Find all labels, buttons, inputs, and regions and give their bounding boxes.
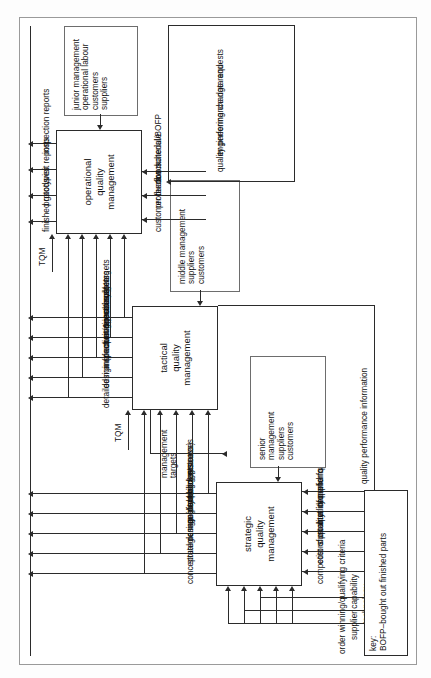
tact-to-oper-arrow-1 [65,234,71,239]
tact-to-oper-arrow-3 [93,234,99,239]
management-targets-arrow [222,451,227,457]
strategic-input-line-1 [228,591,229,624]
operational-box[interactable]: operational quality management [56,130,142,234]
diagram-canvas: strategic quality management [20,18,416,664]
operational-bottom-feeder-3 [142,171,206,172]
qpd-vertical-left [168,181,294,182]
diagram-page: strategic quality management [0,0,431,678]
key-heading: key: [368,495,378,651]
label-raw-material-bofp: raw material/BOFP [154,114,163,184]
operational-output-arrow-4 [28,141,33,147]
strategic-input-line-4 [276,591,277,624]
middle-to-tactical-arrow [197,301,203,306]
label-design-systems: design systems [186,447,195,504]
strategic-bottom-arrow-3 [303,529,308,535]
strategic-input-line-5 [292,591,293,624]
strategic-box[interactable]: strategic quality management [216,482,302,586]
qpd-horizontal-lower [294,25,295,182]
strategic-output-arrow-3 [28,531,33,537]
strat-to-tact-arrow-3 [173,410,179,415]
tactical-box-line2: quality [169,344,180,371]
label-inspection-reports: inspection reports [42,89,51,155]
operational-output-arrow-2 [28,193,33,199]
strategic-box-line2: quality [253,520,264,547]
page-frame: strategic quality management [19,17,417,665]
tactical-output-line-1 [32,397,132,398]
tactical-box-line3: management [181,330,192,385]
tactical-output-arrow-2 [28,375,33,381]
tqm-tactical-arrow [125,410,131,415]
junior-line-4: suppliers [99,77,109,110]
operational-output-arrow-3 [28,167,33,173]
senior-to-strategic-arrow [275,477,281,482]
strategic-output-arrow-1 [28,571,33,577]
strategic-input-arrow-3 [257,586,263,591]
tact-to-oper-line-1 [68,239,69,398]
strategic-input-line-3 [260,591,261,624]
strategic-bottom-arrow-2 [303,549,308,555]
key-entry: BOFP–bought out finished parts [378,495,388,651]
strategic-bottom-arrow-4 [303,509,308,515]
management-targets-hline [150,410,151,454]
tactical-output-arrow-3 [28,355,33,361]
strategic-bottom-arrow-5 [303,489,308,495]
strat-to-tact-arrow-2 [157,410,163,415]
tqm-operational-line [52,239,53,272]
operational-bottom-arrow-2 [142,193,147,199]
label-tqm-operational: TQM [38,248,47,266]
tact-to-oper-arrow-4 [107,234,113,239]
label-quality-performance-information: quality performance information [360,368,369,484]
operational-box-line3: management [105,154,116,209]
label-tqm-tactical: TQM [114,424,123,442]
operational-box-line2: quality [93,168,104,195]
tact-to-oper-line-4 [110,239,111,338]
junior-to-operational-arrow [97,125,103,130]
strategic-output-arrow-5 [28,491,33,497]
diagram-rotor: strategic quality management [20,18,416,664]
middle-line-3: customers [196,246,206,284]
tact-to-oper-arrow-2 [79,234,85,239]
strat-to-tact-arrow-4 [189,410,195,415]
strategic-output-arrow-4 [28,511,33,517]
operational-bottom-arrow-3 [142,169,147,175]
label-management-targets: management targets [160,456,179,478]
label-ecr: engineering change requests [216,49,225,156]
strat-to-tact-arrow-5 [205,410,211,415]
qpi-vertical-right [218,305,375,306]
strategic-input-arrow-4 [273,586,279,591]
strategic-bottom-arrow-1 [303,569,308,575]
tactical-box-line1: tactical [158,343,169,373]
strategic-input-arrow-5 [289,586,295,591]
tact-to-oper-line-2 [82,239,83,378]
strat-to-tact-line-5 [208,415,209,494]
strategic-output-arrow-2 [28,551,33,557]
top-rail [30,26,31,656]
qpd-horizontal-upper [168,26,169,182]
strategic-box-line1: strategic [242,516,253,552]
tact-to-oper-line-5 [124,239,125,318]
tact-to-oper-arrow-5 [121,234,127,239]
tqm-tactical-line [128,415,129,450]
strategic-input-line-2 [244,591,245,624]
operational-bottom-feeder-1 [142,219,206,220]
strategic-input-arrow-1 [225,586,231,591]
operational-output-arrow-1 [28,219,33,225]
operational-bottom-arrow-1 [142,217,147,223]
tactical-output-arrow-4 [28,335,33,341]
strat-to-tact-line-1 [144,415,145,574]
tact-to-oper-line-3 [96,239,97,358]
operational-bottom-feeder-2 [142,195,206,196]
operational-box-line1: operational [82,159,93,206]
tactical-output-arrow-5 [28,315,33,321]
strategic-box-line3: management [265,506,276,561]
key-box: key: BOFP–bought out finished parts [364,490,408,656]
senior-management-lines: senior management suppliers customers [258,360,296,460]
junior-management-lines: junior management operational labour cus… [72,28,110,110]
strategic-input-arrow-2 [241,586,247,591]
tactical-box[interactable]: tactical quality management [132,306,218,410]
middle-management-lines: middle management suppliers customers [178,184,206,284]
tactical-output-arrow-1 [28,395,33,401]
strat-to-tact-arrow-1 [141,410,147,415]
senior-line-4: customers [285,422,295,460]
label-order-winning-criteria: order winning/qualifying criteria [338,540,347,654]
